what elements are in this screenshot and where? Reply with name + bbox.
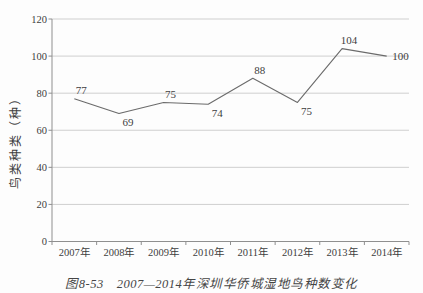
y-tick-label: 20 (37, 199, 48, 210)
data-point-label: 100 (392, 50, 409, 62)
data-point-label: 77 (76, 84, 88, 96)
data-point-label: 75 (165, 88, 177, 100)
data-point-label: 104 (341, 34, 358, 46)
figure-number: 图8-53 (65, 277, 103, 291)
y-tick-label: 80 (37, 88, 48, 99)
data-point-label: 75 (301, 105, 313, 117)
data-point-label: 69 (122, 116, 134, 128)
data-point-label: 74 (212, 107, 224, 119)
y-tick-label: 0 (42, 236, 47, 247)
x-category-label: 2014年 (371, 246, 402, 258)
x-category-label: 2013年 (327, 246, 358, 258)
y-tick-label: 100 (31, 51, 47, 62)
x-category-label: 2010年 (193, 246, 224, 258)
bird-species-line-chart: 0204060801001202007年2008年2009年2010年2011年… (0, 0, 423, 270)
x-category-label: 2009年 (148, 246, 179, 258)
data-line (74, 49, 386, 114)
figure-caption: 图8-532007—2014年深圳华侨城湿地鸟种数变化 (0, 273, 423, 292)
y-axis-title: 鸟类种类（种） (8, 91, 23, 189)
y-tick-label: 40 (37, 162, 48, 173)
data-point-label: 88 (254, 64, 266, 76)
x-category-label: 2008年 (103, 246, 134, 258)
figure-title: 2007—2014年深圳华侨城湿地鸟种数变化 (117, 277, 358, 291)
x-category-label: 2007年 (59, 246, 90, 258)
figure-8-53: 0204060801001202007年2008年2009年2010年2011年… (0, 0, 423, 293)
y-tick-label: 60 (37, 125, 48, 136)
x-category-label: 2012年 (282, 246, 313, 258)
x-category-label: 2011年 (238, 246, 269, 258)
y-tick-label: 120 (31, 14, 47, 25)
